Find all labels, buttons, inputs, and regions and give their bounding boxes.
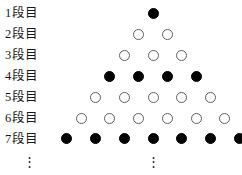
filled-dot	[205, 133, 216, 144]
filled-dot	[162, 71, 173, 82]
open-dot	[90, 92, 101, 103]
open-dot	[219, 113, 230, 124]
open-dot	[148, 50, 159, 61]
open-dot	[133, 29, 144, 40]
dot-triangle-figure: 1段目 2段目 3段目 4段目 5段目 6段目 7段目 ⋮ ⋮	[0, 0, 242, 175]
filled-dot	[104, 71, 115, 82]
filled-dot	[148, 133, 159, 144]
filled-dot	[61, 133, 72, 144]
dot-row-3	[0, 50, 242, 64]
open-dot	[148, 92, 159, 103]
left-continuation-ellipsis: ⋮	[22, 155, 36, 168]
dot-row-7	[0, 133, 242, 147]
open-dot	[104, 113, 115, 124]
filled-dot	[176, 133, 187, 144]
dot-row-5	[0, 92, 242, 106]
open-dot	[176, 50, 187, 61]
dot-row-2	[0, 29, 242, 43]
filled-dot	[191, 71, 202, 82]
open-dot	[162, 113, 173, 124]
dot-row-1	[0, 8, 242, 22]
open-dot	[205, 92, 216, 103]
filled-dot	[90, 133, 101, 144]
filled-dot	[148, 8, 159, 19]
dot-row-6	[0, 113, 242, 127]
open-dot	[133, 113, 144, 124]
filled-dot	[133, 71, 144, 82]
open-dot	[119, 92, 130, 103]
center-continuation-ellipsis: ⋮	[146, 155, 160, 168]
filled-dot	[119, 133, 130, 144]
open-dot	[119, 50, 130, 61]
dot-row-4	[0, 71, 242, 85]
open-dot	[191, 113, 202, 124]
open-dot	[176, 92, 187, 103]
filled-dot	[234, 133, 242, 144]
open-dot	[76, 113, 87, 124]
open-dot	[162, 29, 173, 40]
